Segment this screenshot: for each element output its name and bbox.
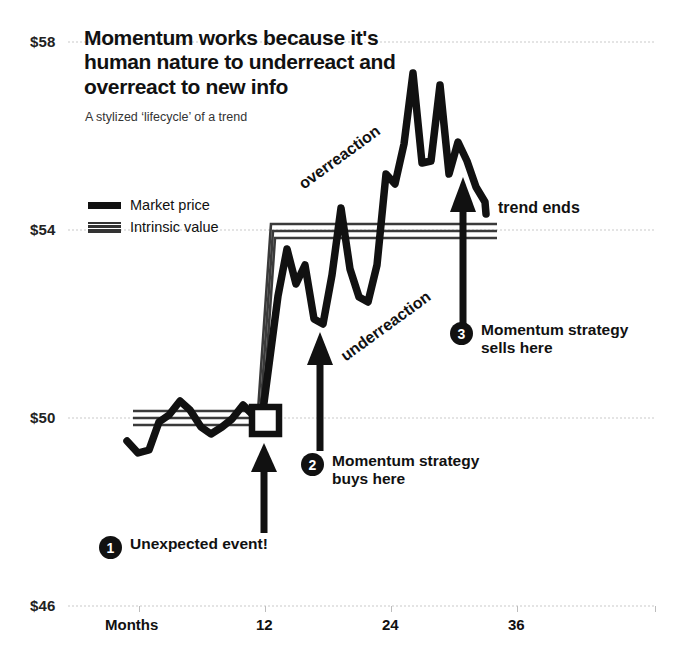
- annotation-text-3: Momentum strategy sells here: [481, 321, 650, 358]
- legend-item-intrinsic-value: Intrinsic value: [88, 216, 219, 238]
- y-tick-54: $54: [30, 221, 56, 238]
- annotation-2: 2 Momentum strategy buys here: [301, 452, 501, 489]
- market-price-swatch-icon: [88, 202, 121, 209]
- chart-figure: $58 $54 $50 $46 Months 12 24 36 Momentum…: [0, 0, 677, 666]
- x-tick-36: 36: [508, 616, 525, 633]
- market-price-line: [127, 73, 486, 453]
- annotation-badge-1: 1: [99, 536, 122, 559]
- annotation-badge-2: 2: [301, 453, 324, 476]
- annotation-arrow-3: [450, 177, 476, 334]
- annotation-badge-3: 3: [450, 322, 473, 345]
- callout-trend-ends: trend ends: [498, 199, 580, 217]
- legend-label-intrinsic-value: Intrinsic value: [130, 219, 219, 235]
- intrinsic-value-swatch-icon: [88, 222, 121, 233]
- page-title: Momentum works because it's human nature…: [84, 26, 414, 99]
- chart-subtitle: A stylized ‘lifecycle’ of a trend: [85, 110, 247, 124]
- y-tick-50: $50: [30, 409, 56, 426]
- annotation-1: 1 Unexpected event!: [99, 535, 268, 559]
- unexpected-event-marker: [252, 407, 279, 434]
- annotation-3: 3 Momentum strategy sells here: [450, 321, 650, 358]
- legend-label-market-price: Market price: [130, 197, 210, 213]
- y-tick-58: $58: [30, 33, 56, 50]
- x-axis-ticks: [140, 606, 656, 612]
- x-axis-label: Months: [105, 616, 158, 633]
- intrinsic-value-line: [133, 224, 497, 425]
- annotation-arrow-2: [307, 332, 333, 451]
- chart-legend: Market price Intrinsic value: [88, 194, 219, 238]
- annotation-text-2: Momentum strategy buys here: [332, 452, 501, 489]
- y-tick-46: $46: [30, 597, 56, 614]
- annotation-text-1: Unexpected event!: [130, 535, 268, 553]
- legend-item-market-price: Market price: [88, 194, 219, 216]
- x-tick-12: 12: [256, 616, 273, 633]
- annotation-arrow-1: [251, 443, 277, 533]
- x-tick-24: 24: [382, 616, 399, 633]
